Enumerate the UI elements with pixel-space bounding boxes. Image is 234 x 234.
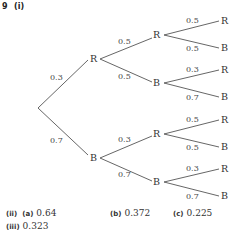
leaf-node: R — [221, 114, 229, 125]
prob-label: 0.5 — [186, 115, 199, 124]
node-RB: B — [153, 77, 160, 88]
prob-label: 0.7 — [118, 170, 131, 179]
node-R: R — [90, 53, 98, 64]
prob-label: 0.7 — [186, 192, 199, 201]
leaf-node: R — [221, 64, 229, 75]
node-RR: R — [153, 29, 161, 40]
prob-label: 0.3 — [186, 164, 199, 173]
leaf-node: R — [221, 163, 229, 174]
answer-ii-b: (b)0.372 — [110, 208, 150, 218]
part-label: (iii) — [6, 223, 20, 231]
prob-label: 0.7 — [186, 93, 199, 102]
prob-label: 0.5 — [118, 37, 131, 46]
leaf-node: B — [221, 91, 228, 102]
prob-label: 0.3 — [50, 73, 63, 82]
node-BB: B — [153, 176, 160, 187]
prob-label: 0.7 — [50, 136, 63, 145]
answer-value: 0.64 — [36, 208, 56, 218]
answer-value: 0.372 — [124, 208, 150, 218]
answer-value: 0.323 — [23, 221, 49, 231]
prob-label: 0.5 — [186, 143, 199, 152]
prob-label: 0.5 — [186, 16, 199, 25]
subpart-label: (b) — [110, 210, 121, 218]
leaf-node: R — [221, 15, 229, 26]
subpart-label: (a) — [22, 210, 33, 218]
probability-tree-diagram: 0.3 0.7 R B 0.5 0.5 R B 0.3 0.7 R B 0.5 … — [0, 0, 234, 234]
answer-ii-c: (c)0.225 — [173, 208, 212, 218]
prob-label: 0.5 — [186, 44, 199, 53]
answer-ii: (ii) (a)0.64 — [6, 208, 56, 218]
node-BR: R — [153, 128, 161, 139]
answer-iii: (iii)0.323 — [6, 221, 48, 231]
prob-label: 0.5 — [118, 72, 131, 81]
leaf-node: B — [221, 141, 228, 152]
subpart-label: (c) — [173, 210, 184, 218]
prob-label: 0.3 — [186, 65, 199, 74]
part-label: (ii) — [6, 210, 17, 218]
prob-label: 0.3 — [118, 135, 131, 144]
node-B: B — [90, 152, 97, 163]
branch-root-B — [38, 108, 88, 155]
branch-root-R — [38, 60, 88, 108]
leaf-node: B — [221, 190, 228, 201]
leaf-node: B — [221, 42, 228, 53]
answer-value: 0.225 — [187, 208, 213, 218]
